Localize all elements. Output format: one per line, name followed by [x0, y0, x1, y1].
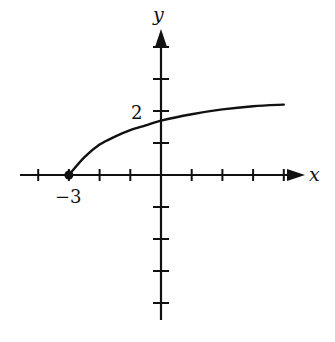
function-curve	[69, 105, 284, 175]
x-axis-arrow-icon	[287, 169, 305, 181]
start-point-dot	[64, 171, 73, 180]
x-axis-label: x	[309, 163, 320, 185]
y-axis-label: y	[152, 3, 164, 25]
y-axis-arrow-icon	[155, 29, 167, 47]
y-tick-label-2: 2	[131, 102, 142, 123]
x-tick-label-neg3: −3	[55, 186, 82, 207]
graph: x y −3 2	[0, 0, 335, 342]
